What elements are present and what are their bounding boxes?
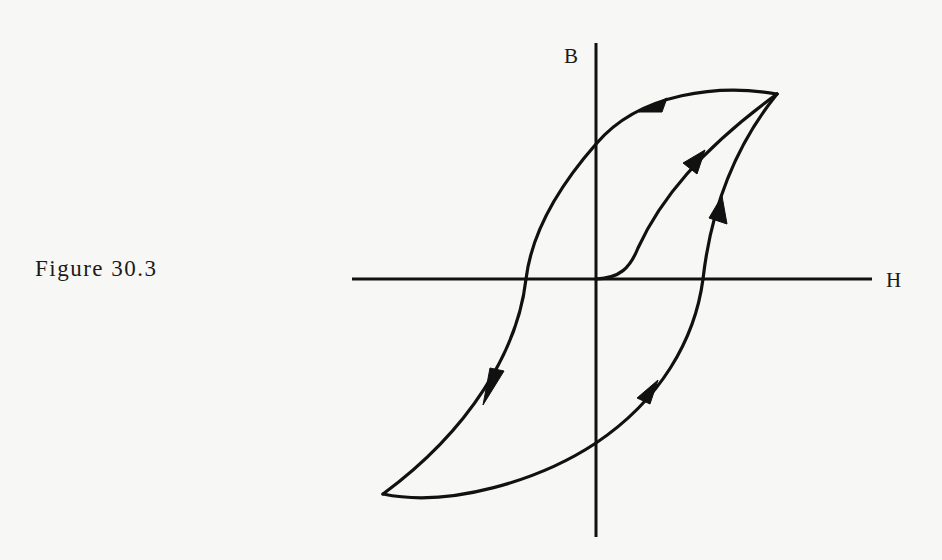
arrow-left-icon xyxy=(639,98,667,112)
lower-ascending-branch xyxy=(383,94,777,498)
hysteresis-diagram: B H xyxy=(0,0,942,560)
h-axis-label: H xyxy=(886,268,901,292)
arrow-down-left-icon xyxy=(483,368,504,405)
arrow-up-right-icon xyxy=(683,150,705,174)
figure-page: Figure 30.3 B H xyxy=(0,0,942,560)
arrow-up-icon xyxy=(709,196,727,224)
upper-descending-branch xyxy=(383,90,777,494)
initial-magnetization-curve xyxy=(596,94,777,279)
b-axis-label: B xyxy=(564,44,578,68)
